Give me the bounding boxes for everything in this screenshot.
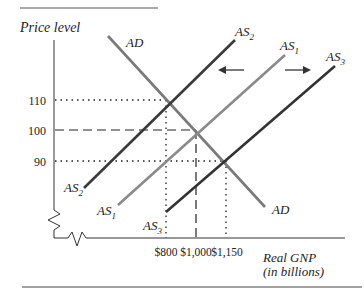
svg-text:AS2: AS2	[234, 24, 254, 42]
left-shift-arrow-icon	[218, 66, 244, 74]
ad-label-top: AD	[125, 35, 144, 50]
svg-text:AS3: AS3	[325, 49, 345, 67]
aggregate-supply-demand-diagram: Price level 110 100 90 AD AD AS2 AS1 AS3…	[0, 0, 364, 293]
svg-text:AS2: AS2	[63, 180, 83, 198]
x-tick-800: $800	[155, 246, 178, 258]
svg-text:AS1: AS1	[279, 38, 299, 56]
y-axis	[48, 40, 60, 238]
x-axis	[54, 232, 345, 246]
x-tick-1150: $1,150	[211, 246, 243, 259]
as2-label-bottom: AS2	[63, 180, 83, 198]
as3-label-top: AS3	[325, 49, 345, 67]
as3-label-bottom: AS3	[142, 218, 162, 236]
x-axis-title-line1: Real GNP	[262, 250, 316, 265]
ad-curve	[108, 36, 265, 207]
x-axis-title-line2: (in billions)	[263, 264, 324, 279]
svg-text:AS3: AS3	[142, 218, 162, 236]
right-shift-arrow-icon	[285, 66, 311, 74]
y-axis-title: Price level	[19, 20, 80, 35]
as1-label-top: AS1	[279, 38, 299, 56]
y-tick-100: 100	[28, 124, 46, 138]
as1-label-bottom: AS1	[96, 203, 116, 221]
y-tick-90: 90	[34, 155, 46, 169]
y-tick-110: 110	[28, 94, 46, 108]
x-tick-1000: $1,000	[180, 246, 212, 259]
as2-label-top: AS2	[234, 24, 254, 42]
as2-curve	[84, 40, 235, 188]
svg-text:AS1: AS1	[96, 203, 116, 221]
ad-label-bottom: AD	[271, 202, 290, 217]
